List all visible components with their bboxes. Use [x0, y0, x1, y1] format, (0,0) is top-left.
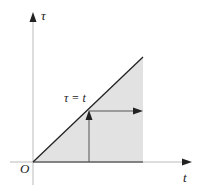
t-axis-label: t: [183, 170, 187, 185]
integration-region-diagram: τ t O τ = t: [0, 0, 198, 195]
t-axis-arrow-icon: [182, 159, 192, 166]
tau-axis-label: τ: [41, 8, 47, 23]
line-label: τ = t: [64, 91, 86, 105]
origin-label: O: [20, 161, 30, 176]
diagram: τ t O τ = t: [0, 0, 198, 195]
tau-axis-arrow-icon: [30, 12, 37, 22]
